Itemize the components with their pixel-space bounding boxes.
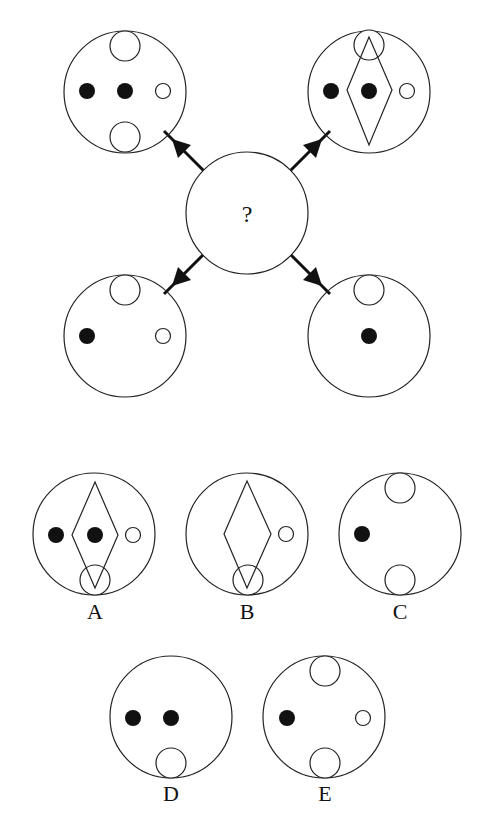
option-b[interactable]: B — [186, 473, 308, 624]
small-circle-top — [110, 31, 140, 61]
center-question-figure: ? — [186, 152, 308, 274]
puzzle-diagram: .c { fill: none; stroke: #222; stroke-wi… — [0, 0, 483, 823]
option-a[interactable]: A — [33, 473, 155, 624]
black-dot — [79, 328, 95, 344]
white-dot — [356, 711, 371, 726]
black-dot — [87, 527, 103, 543]
black-dot — [354, 526, 370, 542]
small-circle-bottom — [156, 748, 186, 778]
small-circle-bottom — [110, 122, 140, 152]
puzzle-stage: .c { fill: none; stroke: #222; stroke-wi… — [0, 0, 483, 823]
connector-top-right — [290, 131, 330, 171]
connector-bottom-left — [164, 254, 204, 294]
option-d[interactable]: D — [110, 656, 232, 806]
black-dot — [117, 83, 133, 99]
option-e[interactable]: E — [263, 656, 385, 806]
option-label: A — [87, 599, 103, 624]
small-circle-top — [110, 275, 140, 305]
black-dot — [361, 83, 377, 99]
small-circle-bottom — [233, 565, 263, 595]
option-label: D — [163, 781, 179, 806]
white-dot — [279, 527, 294, 542]
small-circle-bottom — [310, 748, 340, 778]
small-circle-top — [310, 656, 340, 686]
white-dot — [156, 84, 171, 99]
black-dot — [279, 710, 295, 726]
option-label: B — [240, 599, 255, 624]
black-dot — [79, 83, 95, 99]
figure-bottom-right — [308, 275, 430, 397]
black-dot — [323, 83, 339, 99]
small-circle-top — [385, 473, 415, 503]
white-dot — [400, 84, 415, 99]
question-mark: ? — [242, 201, 253, 227]
option-label: E — [318, 781, 331, 806]
option-c[interactable]: C — [339, 473, 461, 624]
small-circle-bottom — [385, 565, 415, 595]
small-circle-bottom — [80, 565, 110, 595]
white-dot — [126, 528, 141, 543]
small-circle-top — [354, 275, 384, 305]
figure-bottom-left — [64, 275, 186, 397]
small-circle-top — [354, 30, 384, 60]
black-dot — [361, 328, 377, 344]
white-dot — [156, 329, 171, 344]
connector-bottom-right — [290, 254, 330, 294]
option-label: C — [393, 599, 408, 624]
connector-top-left — [164, 131, 204, 171]
black-dot — [125, 710, 141, 726]
black-dot — [48, 527, 64, 543]
black-dot — [163, 710, 179, 726]
